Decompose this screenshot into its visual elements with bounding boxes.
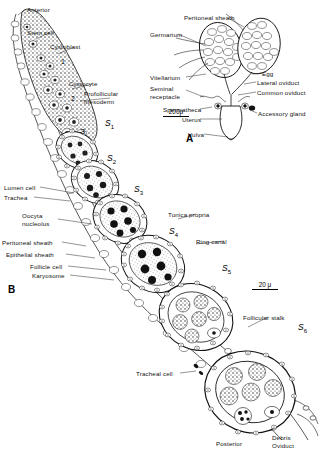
label-anterior: Anterior (27, 6, 50, 14)
s6-karyosome-cell (235, 408, 252, 425)
label-egg: Egg (262, 70, 273, 78)
label-profollicular-mesoderm: Profollicular mesoderm (84, 90, 118, 105)
label-trachea: Trachea (4, 194, 28, 202)
label-region-1: 1 (61, 58, 65, 65)
scale-bar-text-B: 20 μ (252, 281, 278, 289)
label-lateral-oviduct: Lateral oviduct (257, 79, 300, 87)
scale-bar-B: 20 μ (252, 281, 278, 290)
label-common-oviduct: Common oviduct (257, 89, 306, 97)
stage-s2: S2 (107, 153, 116, 165)
scale-bar-line-A (163, 116, 189, 117)
panel-letter-A: A (186, 133, 193, 144)
label-region-2: 2 (71, 95, 75, 102)
label-epithelial-sheath: Epithelial sheath (6, 251, 54, 259)
label-debris: Debris (272, 434, 291, 442)
accessory-gland-shape (249, 105, 255, 110)
label-tunica-propria: Tunica propria (168, 211, 209, 219)
label-seminal-receptacle: Seminal receptacle (150, 85, 180, 100)
label-karyosome: Karyosome (32, 272, 65, 280)
label-cystoblast: Cystoblast (50, 43, 80, 51)
label-accessory-gland: Accessory gland (258, 110, 306, 118)
stage-s1: S1 (105, 118, 114, 130)
stage-s4: S4 (169, 226, 178, 238)
label-peritoneal-sheath-a: Peritoneal sheath (184, 14, 235, 22)
label-posterior: Posterior (216, 440, 242, 448)
label-tracheal-cell: Tracheal cell (136, 370, 173, 378)
label-ring-canal: Ring canal (196, 238, 227, 246)
scale-bar-line-B (252, 289, 278, 290)
label-germarium: Germarium (150, 31, 182, 39)
label-oocyte-nucleolus: Oocyta nucleolus (22, 212, 50, 227)
label-uterus: Uterus (182, 116, 201, 124)
label-stem-cell: Stem cell (27, 29, 54, 37)
panel-letter-B: B (8, 284, 15, 295)
label-follicular-stalk: Follicular stalk (243, 314, 285, 322)
stage-s5: S5 (222, 263, 231, 275)
stage-s6: S6 (298, 322, 307, 334)
label-lumen-cell: Lumen cell (4, 184, 35, 192)
scale-bar-text-A: 200μ (163, 108, 189, 116)
label-cystocyte: Cystocyte (69, 80, 98, 88)
label-oviduct: Oviduct (272, 442, 294, 450)
label-region-3: 3 (81, 128, 85, 135)
stage-s3: S3 (134, 184, 143, 196)
scale-bar-A: 200μ (163, 108, 189, 117)
label-peritoneal-sheath-b: Peritoneal sheath (2, 239, 53, 247)
label-follicle-cell: Follicle cell (30, 263, 62, 271)
label-vitellarium: Vitellarium (150, 74, 180, 82)
